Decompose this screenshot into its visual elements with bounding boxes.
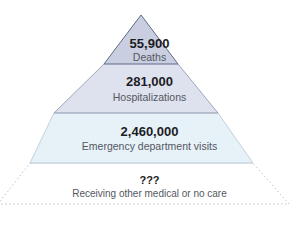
hospitalizations-label: Hospitalizations: [0, 92, 299, 103]
ed-visits-value: 2,460,000: [0, 125, 299, 138]
ed-visits-label: Emergency department visits: [0, 141, 299, 152]
deaths-label: Deaths: [0, 52, 299, 63]
other-care-value: ???: [0, 175, 299, 186]
deaths-value: 55,900: [0, 37, 299, 50]
hospitalizations-value: 281,000: [0, 75, 299, 88]
other-care-label: Receiving other medical or no care: [0, 189, 299, 199]
